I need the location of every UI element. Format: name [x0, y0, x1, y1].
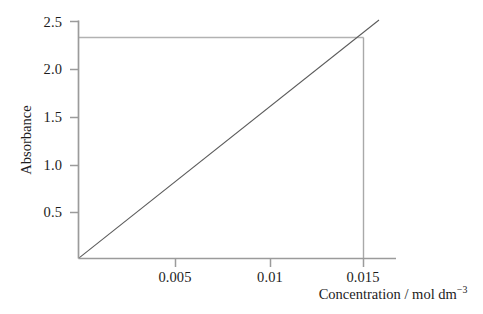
calibration-chart-figure: 2.5 2.0 1.5 1.0 0.5 0.005 0.01 0.015 Abs… [0, 0, 483, 314]
y-tick-label-0.5: 0.5 [38, 205, 62, 220]
x-tick-label-0.015: 0.015 [346, 270, 379, 285]
y-axis-title: Absorbance [19, 105, 34, 174]
y-tick-label-1.0: 1.0 [38, 158, 62, 173]
y-tick-label-2.5: 2.5 [38, 15, 62, 30]
x-tick-label-0.01: 0.01 [257, 270, 283, 285]
x-axis-title-text: Concentration / mol dm [319, 286, 457, 302]
calibration-line [79, 20, 379, 258]
x-tick-label-0.005: 0.005 [158, 270, 191, 285]
chart-plot-area [0, 0, 483, 314]
y-tick-label-2.0: 2.0 [38, 62, 62, 77]
x-axis-title-exponent: −3 [457, 284, 467, 295]
y-tick-label-1.5: 1.5 [38, 110, 62, 125]
x-axis-title: Concentration / mol dm−3 [319, 287, 468, 302]
